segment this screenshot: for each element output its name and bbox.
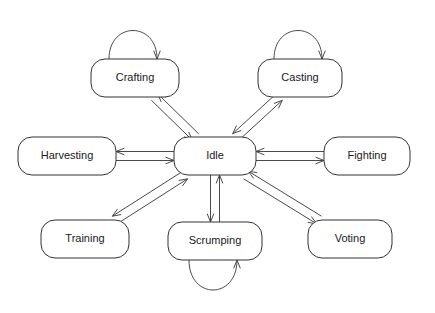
state-node-voting[interactable]: Voting: [308, 220, 392, 258]
edge-fighting-to-idle: [256, 148, 324, 155]
state-diagram-canvas: CraftingCastingHarvestingIdleFightingTra…: [0, 0, 435, 313]
edge-voting-to-idle: [248, 171, 321, 216]
edge-idle-to-harvesting: [116, 148, 174, 155]
state-node-casting[interactable]: Casting: [258, 59, 342, 97]
edge-casting-to-idle: [233, 94, 277, 134]
edge-training-to-idle: [117, 179, 187, 224]
self-loop-crafting: [109, 31, 160, 60]
self-loop-scrumping: [189, 260, 240, 290]
edge-crafting-to-idle: [151, 100, 192, 140]
self-loop-casting: [274, 31, 325, 60]
edge-idle-to-scrumping: [207, 175, 214, 222]
edge-idle-to-fighting: [256, 157, 324, 164]
state-node-training[interactable]: Training: [41, 220, 129, 258]
edge-idle-to-training: [112, 171, 182, 216]
state-node-harvesting[interactable]: Harvesting: [18, 137, 116, 175]
state-node-idle[interactable]: Idle: [174, 137, 256, 175]
edge-harvesting-to-idle: [116, 157, 174, 164]
diagram-svg: CraftingCastingHarvestingIdleFightingTra…: [0, 0, 435, 313]
edge-idle-to-crafting: [158, 94, 199, 134]
edge-idle-to-voting: [244, 179, 317, 224]
edge-scrumping-to-idle: [216, 175, 223, 222]
state-node-fighting[interactable]: Fighting: [324, 137, 410, 175]
state-node-scrumping[interactable]: Scrumping: [168, 222, 262, 260]
edge-idle-to-casting: [239, 100, 283, 140]
nodes-layer: CraftingCastingHarvestingIdleFightingTra…: [18, 59, 410, 260]
state-node-crafting[interactable]: Crafting: [91, 59, 179, 97]
